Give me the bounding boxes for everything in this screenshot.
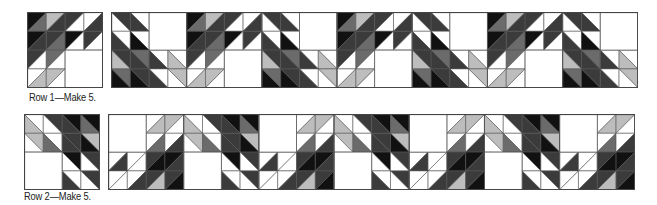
row1-single-block bbox=[27, 12, 103, 88]
row2-caption: Row 2—Make 5. bbox=[24, 190, 91, 202]
quilt-block-R2 bbox=[334, 114, 409, 189]
quilt-block-C bbox=[259, 114, 334, 189]
quilt-block-R2 bbox=[484, 114, 559, 189]
row1-strip bbox=[111, 12, 638, 88]
quilt-block-B bbox=[563, 12, 638, 87]
row2-single-block bbox=[24, 114, 100, 190]
quilt-block-A bbox=[187, 12, 262, 87]
quilt-block-C bbox=[409, 114, 484, 189]
quilt-block-C bbox=[560, 114, 635, 189]
quilt-block-R2 bbox=[24, 114, 99, 189]
row2-strip bbox=[108, 114, 635, 190]
quilt-block-A bbox=[27, 12, 102, 87]
quilt-block-A bbox=[337, 12, 412, 87]
quilt-block-R2 bbox=[184, 114, 259, 189]
quilt-block-A bbox=[487, 12, 562, 87]
quilt-block-B bbox=[262, 12, 337, 87]
quilt-block-B bbox=[412, 12, 487, 87]
row1-caption: Row 1—Make 5. bbox=[29, 91, 96, 103]
quilt-block-C bbox=[109, 114, 184, 189]
quilt-block-B bbox=[112, 12, 187, 87]
